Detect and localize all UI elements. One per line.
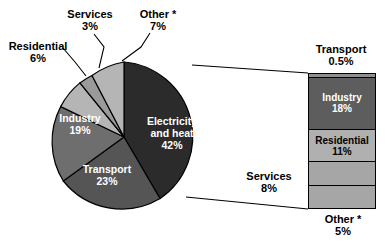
pie-label-electricity-line1: Electricity xyxy=(140,116,204,128)
pie-label-transport-value: 23% xyxy=(72,176,142,188)
pie-label-residential: Residential 6% xyxy=(2,40,74,65)
bar-label-residential-value: 11% xyxy=(306,146,378,157)
pie-of-pie-chart: Electricity and heat 42% Transport 23% I… xyxy=(0,0,385,247)
pie-label-electricity-line2: and heat xyxy=(140,128,204,140)
pie-label-other-value: 7% xyxy=(128,20,188,32)
pie-label-services-name: Services xyxy=(57,8,123,20)
bar-segment-services xyxy=(308,161,376,186)
pie-label-transport: Transport 23% xyxy=(72,164,142,188)
bar-label-industry-value: 18% xyxy=(308,103,376,114)
bar-segment-other xyxy=(308,185,376,209)
bar-label-residential-name: Residential xyxy=(306,135,378,146)
bar-label-services: Services 8% xyxy=(237,170,301,195)
bar-label-transport-name: Transport xyxy=(300,43,382,55)
pie-label-electricity-value: 42% xyxy=(140,140,204,152)
pie-label-residential-name: Residential xyxy=(2,40,74,52)
pie-label-services-value: 3% xyxy=(57,20,123,32)
bar-label-other-name: Other * xyxy=(312,213,374,225)
bar-label-industry: Industry 18% xyxy=(308,92,376,114)
pie-label-transport-name: Transport xyxy=(72,164,142,176)
pie-label-industry: Industry 19% xyxy=(49,113,111,137)
bar-label-transport: Transport 0.5% xyxy=(300,43,382,68)
pie-label-electricity-and-heat: Electricity and heat 42% xyxy=(140,116,204,151)
pie-label-other: Other * 7% xyxy=(128,8,188,33)
bar-label-services-value: 8% xyxy=(237,182,301,194)
bar-label-residential: Residential 11% xyxy=(306,135,378,157)
pie-label-industry-name: Industry xyxy=(49,113,111,125)
pie-label-other-name: Other * xyxy=(128,8,188,20)
pie-label-services: Services 3% xyxy=(57,8,123,33)
bar-label-services-name: Services xyxy=(237,170,301,182)
bar-label-other: Other * 5% xyxy=(312,213,374,238)
pie-label-industry-value: 19% xyxy=(49,125,111,137)
bar-label-industry-name: Industry xyxy=(308,92,376,103)
pie-label-residential-value: 6% xyxy=(2,52,74,64)
leader-line-services xyxy=(94,34,104,68)
leader-line-other xyxy=(122,33,150,61)
bar-label-transport-value: 0.5% xyxy=(300,55,382,67)
bar-label-other-value: 5% xyxy=(312,225,374,237)
